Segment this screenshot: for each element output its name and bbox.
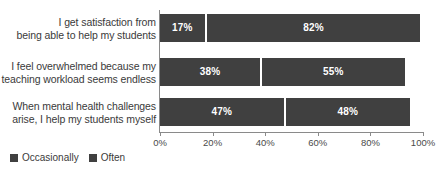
category-label-1-line-1: teaching workload seems endless [0,73,156,86]
category-label-0: I get satisfaction from being able to he… [0,16,156,41]
legend-item[interactable]: Often [89,152,125,163]
x-tick-label: 40% [256,137,275,148]
category-label-2-line-0: When mental health challenges [0,100,156,113]
stacked-bar-chart: I get satisfaction from being able to he… [0,0,448,171]
x-tick-label: 0% [153,137,167,148]
x-tick-label: 80% [361,137,380,148]
x-axis-line [159,132,424,133]
bar-segment-often[interactable]: 82% [205,14,421,42]
x-tick [160,132,161,136]
x-tick-label: 20% [203,137,222,148]
x-tick-label: 60% [308,137,327,148]
legend: OccasionallyOften [10,152,125,163]
x-tick [213,132,214,136]
legend-item[interactable]: Occasionally [10,152,79,163]
bar-value-label: 38% [200,67,221,77]
category-label-0-line-1: being able to help my students [0,29,156,42]
x-tick [370,132,371,136]
legend-swatch-icon [10,154,18,162]
bar-segment-occasionally[interactable]: 17% [160,14,205,42]
bar-segment-often[interactable]: 55% [260,58,405,86]
category-label-1-line-0: I feel overwhelmed because my [0,60,156,73]
category-label-2-line-1: arise, I help my students myself [0,113,156,126]
bar-value-label: 48% [337,107,358,117]
legend-label: Often [101,152,125,163]
x-tick [423,132,424,136]
category-label-2: When mental health challenges arise, I h… [0,100,156,125]
bar-segment-occasionally[interactable]: 47% [160,98,284,126]
legend-swatch-icon [89,154,97,162]
bar-value-label: 55% [323,67,344,77]
category-label-1: I feel overwhelmed because my teaching w… [0,60,156,85]
x-tick [318,132,319,136]
bar-segment-often[interactable]: 48% [284,98,410,126]
plot-area: 17%82%38%55%47%48% [160,10,423,132]
bar-value-label: 47% [211,107,232,117]
legend-label: Occasionally [22,152,79,163]
x-tick [265,132,266,136]
x-tick-label: 100% [411,137,435,148]
bar-segment-occasionally[interactable]: 38% [160,58,260,86]
category-label-0-line-0: I get satisfaction from [0,16,156,29]
bar-value-label: 17% [172,23,193,33]
bar-value-label: 82% [303,23,324,33]
